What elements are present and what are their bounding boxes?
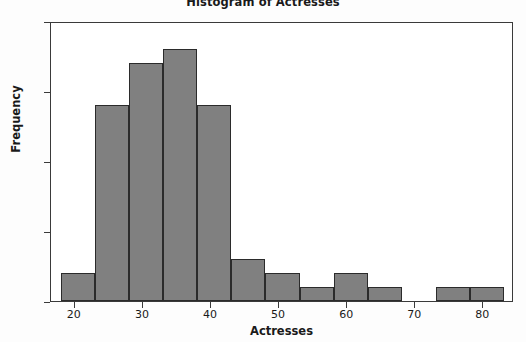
x-axis-tick-mark [414,302,415,308]
x-axis-tick-label: 30 [122,308,162,321]
y-axis-tick-mark [44,92,50,93]
y-axis-tick-mark [44,232,50,233]
x-axis-tick-mark [74,302,75,308]
histogram-screenshot: Histogram of Actresses Frequency 0510152… [0,0,526,342]
histogram-bar [334,273,368,301]
histogram-bar [61,273,95,301]
x-axis-tick-label: 40 [190,308,230,321]
x-axis-title: Actresses [50,324,513,338]
x-axis-tick-label: 80 [462,308,502,321]
x-axis-tick-mark [482,302,483,308]
y-axis-tick-mark [44,22,50,23]
y-axis-tick-mark [44,302,50,303]
histogram-bar [436,287,470,301]
histogram-bar [300,287,334,301]
x-axis-tick-label: 60 [326,308,366,321]
histogram-bar [368,287,402,301]
histogram-bar [163,49,197,301]
x-axis-tick-mark [346,302,347,308]
chart-title: Histogram of Actresses [0,0,526,9]
plot-frame [50,22,513,302]
histogram-bar [231,259,265,301]
x-axis-tick-mark [278,302,279,308]
histogram-bar [197,105,231,301]
x-axis-tick-mark [210,302,211,308]
x-axis-tick-label: 70 [394,308,434,321]
x-axis-tick-label: 20 [54,308,94,321]
x-axis-tick-label: 50 [258,308,298,321]
histogram-bar [265,273,299,301]
histogram-bar [470,287,504,301]
y-axis-title: Frequency [9,71,23,167]
plot-area [51,23,512,301]
histogram-bar [129,63,163,301]
x-axis-tick-mark [142,302,143,308]
y-axis-tick-mark [44,162,50,163]
histogram-bar [95,105,129,301]
